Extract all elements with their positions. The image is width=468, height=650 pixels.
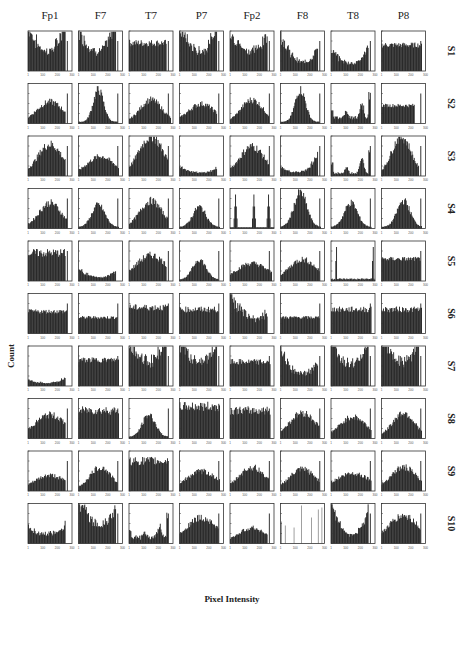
x-tick-label: 200 — [105, 336, 110, 340]
panel-S2-Fp1: 1100200300 — [27, 84, 75, 130]
x-tick-label: 1 — [78, 493, 80, 497]
panel-S3-T8: 1100200300 — [330, 136, 378, 182]
x-tick-label: 300 — [271, 283, 276, 287]
x-tick-label: 200 — [206, 178, 211, 182]
x-tick-label: 300 — [372, 73, 377, 77]
x-tick-label: 100 — [293, 546, 298, 550]
x-tick-label: 1 — [381, 493, 383, 497]
x-tick-label: 200 — [257, 283, 262, 287]
x-tick-label: 1 — [229, 493, 231, 497]
histogram-bar — [336, 247, 337, 281]
x-tick-label: 100 — [394, 546, 399, 550]
x-tick-label: 1 — [78, 178, 80, 182]
x-tick-label: 100 — [293, 126, 298, 130]
x-tick-label: 300 — [69, 336, 74, 340]
x-tick-label: 100 — [40, 283, 45, 287]
panel-S4-T8: 1100200300 — [330, 189, 378, 235]
histogram-bar — [168, 304, 169, 334]
panel-S9-T8: 1100200300 — [330, 451, 378, 497]
histogram-bar — [168, 146, 169, 176]
x-tick-label: 1 — [229, 126, 231, 130]
panel-S2-F8: 1100200300 — [280, 84, 328, 130]
histogram-bar — [322, 508, 323, 544]
histogram-bar — [420, 94, 421, 124]
histogram-bar — [67, 461, 68, 491]
histogram-bar — [218, 199, 219, 229]
histogram-bar — [420, 251, 421, 281]
x-tick-label: 100 — [242, 283, 247, 287]
x-tick-label: 200 — [55, 126, 60, 130]
panel-S7-F8: 1100200300 — [280, 346, 328, 392]
x-tick-label: 100 — [293, 283, 298, 287]
x-tick-label: 100 — [242, 493, 247, 497]
histogram-bar — [218, 356, 219, 386]
x-tick-label: 200 — [156, 283, 161, 287]
x-tick-label: 300 — [221, 231, 226, 235]
x-tick-label: 100 — [40, 441, 45, 445]
x-tick-label: 300 — [69, 126, 74, 130]
x-tick-label: 1 — [229, 178, 231, 182]
histogram-bar — [115, 509, 116, 543]
x-tick-label: 200 — [257, 441, 262, 445]
x-tick-label: 200 — [55, 231, 60, 235]
x-tick-label: 100 — [141, 231, 146, 235]
x-tick-label: 300 — [221, 283, 226, 287]
x-tick-label: 1 — [381, 336, 383, 340]
x-tick-label: 100 — [192, 283, 197, 287]
column-label: F8 — [297, 9, 309, 21]
histogram-bar — [370, 356, 371, 386]
x-tick-label: 100 — [242, 231, 247, 235]
panel-S6-P7: 1100200300 — [179, 294, 227, 340]
x-tick-label: 300 — [372, 388, 377, 392]
x-tick-label: 300 — [423, 388, 428, 392]
column-label: Fp1 — [41, 9, 58, 21]
x-tick-label: 200 — [156, 178, 161, 182]
x-tick-label: 100 — [394, 493, 399, 497]
panel-S1-Fp2: 1100200300 — [229, 31, 277, 77]
panel-S4-P7: 1100200300 — [179, 189, 227, 235]
panel-S4-Fp2: 1100200300 — [229, 189, 277, 235]
x-tick-label: 300 — [322, 231, 327, 235]
x-tick-label: 1 — [27, 336, 29, 340]
histogram-bar — [267, 317, 268, 334]
x-tick-label: 200 — [408, 178, 413, 182]
panel-S8-T7: 1100200300 — [128, 399, 176, 445]
x-tick-label: 1 — [229, 388, 231, 392]
x-tick-label: 1 — [179, 441, 181, 445]
histogram-bar — [270, 364, 271, 386]
histogram-bar — [319, 251, 320, 281]
x-tick-label: 100 — [40, 493, 45, 497]
x-tick-label: 300 — [170, 178, 175, 182]
x-tick-label: 300 — [423, 73, 428, 77]
x-tick-label: 300 — [69, 493, 74, 497]
x-tick-label: 1 — [280, 388, 282, 392]
panel-S5-P8: 1100200300 — [381, 241, 429, 287]
panel-S8-Fp2: 1100200300 — [229, 399, 277, 445]
row-labels: S1S2S3S4S5S6S7S8S9S10 — [446, 46, 457, 532]
x-tick-label: 1 — [330, 493, 332, 497]
histogram-bar — [67, 409, 68, 439]
x-tick-label: 300 — [271, 231, 276, 235]
panel-S10-P7: 1100200300 — [179, 504, 227, 550]
x-tick-label: 200 — [307, 546, 312, 550]
panel-S7-P8: 1100200300 — [381, 346, 429, 392]
x-tick-label: 200 — [307, 388, 312, 392]
panel-S1-Fp1: 1100200300 — [27, 31, 75, 77]
x-tick-label: 200 — [105, 441, 110, 445]
x-tick-label: 1 — [280, 546, 282, 550]
histogram-bar — [67, 304, 68, 334]
x-tick-label: 100 — [141, 493, 146, 497]
x-tick-label: 200 — [206, 336, 211, 340]
x-tick-label: 300 — [322, 73, 327, 77]
x-tick-label: 100 — [141, 283, 146, 287]
x-tick-label: 200 — [408, 441, 413, 445]
x-tick-label: 200 — [105, 546, 110, 550]
x-tick-label: 300 — [120, 178, 125, 182]
panel-S9-P7: 1100200300 — [179, 451, 227, 497]
x-tick-label: 1 — [229, 336, 231, 340]
x-tick-label: 200 — [156, 441, 161, 445]
histogram-bar — [118, 413, 119, 438]
x-tick-label: 100 — [394, 231, 399, 235]
histogram-bar — [65, 112, 66, 124]
histogram-bar — [168, 514, 169, 544]
